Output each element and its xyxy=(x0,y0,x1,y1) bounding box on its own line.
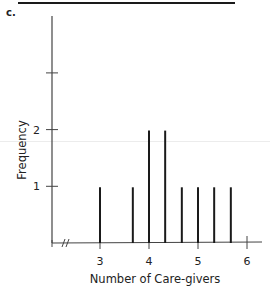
y-tick-label: 1 xyxy=(33,180,40,193)
x-tick-label: 6 xyxy=(244,255,251,268)
y-axis-title: Frequency xyxy=(15,120,29,180)
axes xyxy=(46,16,262,249)
x-tick-label: 4 xyxy=(146,255,153,268)
x-axis-title: Number of Care-givers xyxy=(90,272,220,286)
y-tick-label: 2 xyxy=(33,124,40,137)
frequency-chart: 123456Number of Care-giversFrequency xyxy=(0,0,270,301)
bars xyxy=(100,131,231,243)
x-tick-label: 5 xyxy=(195,255,202,268)
x-tick-label: 3 xyxy=(97,255,104,268)
